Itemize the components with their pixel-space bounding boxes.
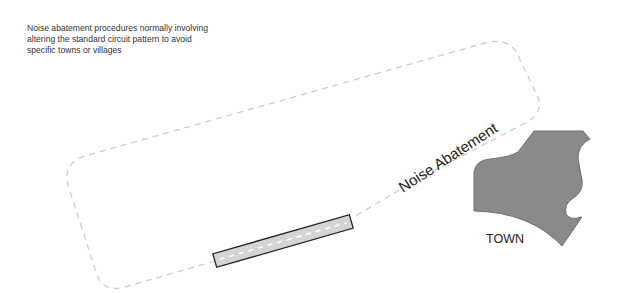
diagram: Noise Abatement TOWN (0, 0, 619, 294)
town-area (474, 131, 590, 246)
circuit-pattern (67, 41, 539, 288)
runway (213, 215, 353, 268)
town-label: TOWN (486, 232, 524, 246)
